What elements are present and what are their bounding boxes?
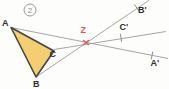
- label-c-prime: C': [120, 22, 129, 32]
- label-b: B: [33, 79, 40, 89]
- geometry-figure: 2 A B C Z B' C' A': [0, 0, 169, 89]
- tick-c-prime: [120, 34, 121, 42]
- label-z: Z: [81, 25, 87, 35]
- label-b-prime: B': [138, 5, 147, 15]
- label-a: A: [2, 18, 9, 28]
- label-a-prime: A': [151, 58, 160, 68]
- point-reflection-diagram: 2 A B C Z B' C' A': [0, 0, 169, 89]
- label-c: C: [50, 49, 57, 59]
- exercise-badge: 2: [24, 4, 36, 16]
- line-b-to-b-prime: [36, 0, 150, 77]
- badge-number: 2: [28, 6, 33, 15]
